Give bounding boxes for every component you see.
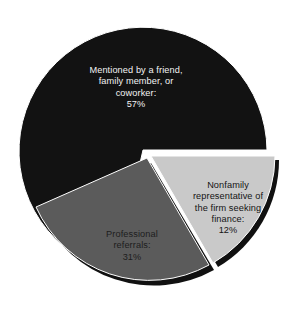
pie-chart-canvas bbox=[0, 0, 287, 310]
pie-chart: Mentioned by a friend, family member, or… bbox=[0, 0, 287, 310]
